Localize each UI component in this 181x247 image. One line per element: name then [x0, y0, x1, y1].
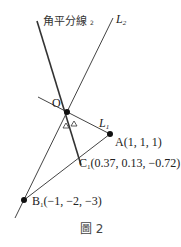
- bisector-text: 角平分線: [43, 15, 87, 28]
- label-C1: C1(0.37, 0.13, −0.72): [79, 157, 180, 171]
- point-B1: [21, 197, 27, 203]
- point-O: [64, 109, 70, 115]
- B1-letter: B: [32, 194, 40, 208]
- C1-letter: C: [79, 156, 87, 170]
- B1-coords: (−1, −2, −3): [44, 194, 102, 208]
- label-O: O: [52, 97, 61, 109]
- bisector-line: [37, 21, 81, 165]
- L1-letter: L: [99, 116, 106, 130]
- L2-letter: L: [116, 12, 123, 26]
- bisector-sub: 2: [90, 19, 94, 26]
- label-L2: L2: [116, 13, 126, 27]
- angle-mark-right: [71, 121, 77, 126]
- point-A: [107, 131, 113, 137]
- C1-coords: (0.37, 0.13, −0.72): [91, 156, 181, 170]
- L1-sub: 1: [106, 123, 110, 131]
- figure-caption: 圖 2: [80, 223, 103, 235]
- L2-sub: 2: [123, 19, 127, 27]
- bisector-label: 角平分線2: [43, 16, 94, 27]
- diagram-canvas: [0, 0, 181, 247]
- label-A: A(1, 1, 1): [115, 136, 162, 148]
- label-L1: L1: [99, 117, 109, 131]
- label-B1: B1(−1, −2, −3): [32, 195, 102, 209]
